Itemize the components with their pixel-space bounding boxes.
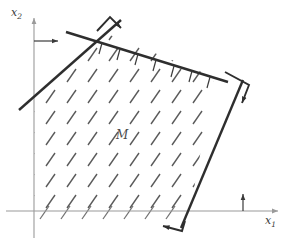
normal-arrow-top-chevron [97, 17, 121, 31]
x1-axis-label: x1 [265, 214, 276, 229]
x1-axis-label-subscript: 1 [271, 220, 276, 229]
x2-axis-label: x2 [11, 6, 22, 21]
region-label-M: M [116, 128, 128, 142]
normal-arrow-right-bracket [225, 72, 249, 103]
figure-canvas: x2 x1 M [0, 0, 291, 246]
x2-axis-label-subscript: 2 [17, 12, 22, 21]
figure-svg [0, 0, 291, 246]
region-M-hatching [34, 33, 214, 211]
